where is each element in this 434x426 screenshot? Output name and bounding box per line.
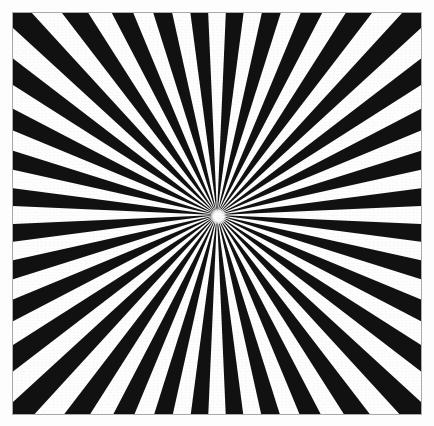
artwork-frame	[12, 12, 422, 415]
screenshot-canvas	[0, 0, 434, 426]
radial-starburst-pattern	[13, 13, 421, 414]
